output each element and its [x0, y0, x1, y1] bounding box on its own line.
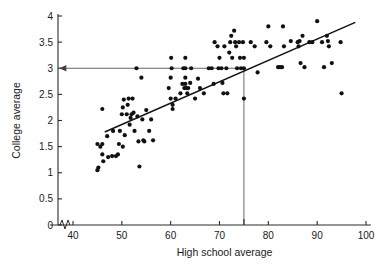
data-point — [118, 129, 122, 133]
data-point — [339, 40, 343, 44]
plot-canvas: 405060708090100 00.511.522.533.54 High s… — [0, 0, 389, 273]
data-point — [183, 76, 187, 80]
data-point — [282, 44, 286, 48]
data-point — [217, 56, 221, 60]
data-point — [100, 142, 104, 146]
data-point — [221, 91, 225, 95]
data-point — [186, 86, 190, 90]
data-point — [125, 112, 129, 116]
x-tick-label: 100 — [358, 230, 375, 241]
data-point — [121, 105, 125, 109]
y-tick-label: 2.5 — [39, 89, 53, 100]
data-point — [268, 44, 272, 48]
data-point — [120, 112, 124, 116]
data-point — [315, 19, 319, 23]
data-point — [235, 66, 239, 70]
data-point — [232, 29, 236, 33]
x-tick-label: 80 — [263, 230, 275, 241]
data-point — [147, 129, 151, 133]
data-point — [242, 56, 246, 60]
data-point — [234, 44, 238, 48]
data-point — [139, 76, 143, 80]
data-point — [242, 96, 246, 100]
x-tick-label: 60 — [165, 230, 177, 241]
data-point — [322, 65, 326, 69]
x-tick-label: 70 — [214, 230, 226, 241]
data-point — [253, 44, 257, 48]
data-point — [339, 91, 343, 95]
y-tick-label: 3 — [47, 63, 53, 74]
data-point — [249, 40, 253, 44]
data-point — [106, 155, 110, 159]
data-point — [188, 81, 192, 85]
x-axis-title: High school average — [177, 246, 273, 258]
data-point — [100, 107, 104, 111]
data-point — [193, 96, 197, 100]
data-point — [215, 44, 219, 48]
scatter-plot-figure: 405060708090100 00.511.522.533.54 High s… — [0, 0, 389, 273]
data-point — [330, 61, 334, 65]
data-point — [255, 70, 259, 74]
data-point — [281, 24, 285, 28]
y-tick-label: 1 — [47, 167, 53, 178]
data-point — [116, 152, 120, 156]
y-tick-label: 4 — [47, 11, 53, 22]
data-point — [266, 24, 270, 28]
y-tick-label: 1.5 — [39, 141, 53, 152]
data-point — [137, 164, 141, 168]
data-point — [210, 66, 214, 70]
data-point — [136, 139, 140, 143]
data-point — [110, 154, 114, 158]
x-tick-label: 40 — [67, 230, 79, 241]
data-point — [131, 111, 135, 115]
y-tick-label: 0 — [47, 220, 53, 231]
y-tick-label: 0.5 — [39, 193, 53, 204]
x-tick-label: 50 — [116, 230, 128, 241]
data-point — [289, 39, 293, 43]
data-point — [320, 40, 324, 44]
data-point — [132, 129, 136, 133]
data-point — [169, 56, 173, 60]
y-tick-label: 2 — [47, 115, 53, 126]
data-point — [264, 40, 268, 44]
y-axis-title: College average — [10, 82, 22, 159]
data-point — [237, 40, 241, 44]
data-point — [238, 56, 242, 60]
data-point — [151, 138, 155, 142]
data-point — [144, 108, 148, 112]
data-point — [229, 34, 233, 38]
data-point — [170, 66, 174, 70]
data-point — [280, 65, 284, 69]
data-point — [101, 159, 105, 163]
data-point — [149, 117, 153, 121]
data-point — [189, 66, 193, 70]
data-point — [228, 40, 232, 44]
data-point — [183, 66, 187, 70]
data-point — [230, 56, 234, 60]
data-point — [183, 82, 187, 86]
data-point — [123, 133, 127, 137]
data-point — [96, 165, 100, 169]
data-point — [327, 44, 331, 48]
data-point — [300, 34, 304, 38]
data-point — [297, 39, 301, 43]
data-point — [202, 91, 206, 95]
data-point — [100, 152, 104, 156]
data-point — [142, 139, 146, 143]
data-point — [241, 40, 245, 44]
data-point — [326, 39, 330, 43]
data-point — [169, 96, 173, 100]
data-point — [126, 103, 130, 107]
data-point — [130, 96, 134, 100]
data-point — [183, 56, 187, 60]
data-point — [121, 145, 125, 149]
data-point — [225, 91, 229, 95]
data-point — [222, 44, 226, 48]
data-point — [117, 142, 121, 146]
data-point — [224, 66, 228, 70]
data-point — [167, 86, 171, 90]
data-point — [178, 91, 182, 95]
data-point — [196, 77, 200, 81]
data-point — [171, 107, 175, 111]
data-point — [128, 123, 132, 127]
